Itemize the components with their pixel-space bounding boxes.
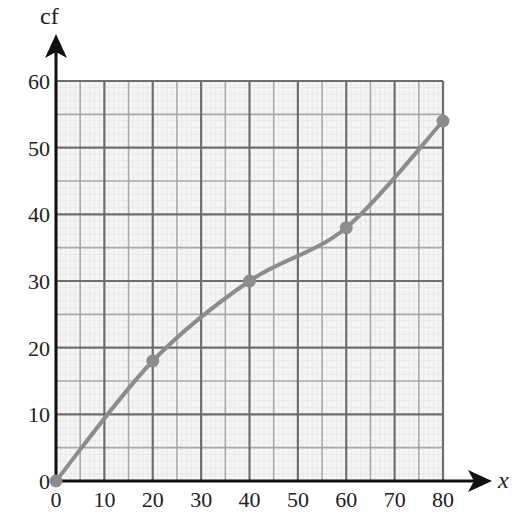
y-tick-label: 20 [28,336,50,361]
x-tick-label: 0 [51,487,62,512]
data-point [146,355,159,368]
data-point [340,221,353,234]
y-axis-label: cf [40,3,59,29]
x-tick-label: 10 [93,487,115,512]
y-tick-label: 40 [28,202,50,227]
y-tick-label: 60 [28,69,50,94]
x-tick-label: 50 [287,487,309,512]
x-tick-label: 80 [432,487,454,512]
x-tick-label: 60 [335,487,357,512]
y-tick-label: 30 [28,269,50,294]
data-point [437,115,450,128]
x-tick-label: 20 [142,487,164,512]
x-tick-label: 70 [384,487,406,512]
x-tick-label: 40 [239,487,261,512]
y-tick-label: 50 [28,136,50,161]
y-tick-label: 0 [39,469,50,494]
y-tick-labels: 0102030405060 [28,69,50,494]
data-point [50,475,63,488]
data-point [243,275,256,288]
x-tick-label: 30 [190,487,212,512]
y-tick-label: 10 [28,402,50,427]
x-axis-label: x [497,467,509,493]
cumulative-frequency-chart: 01020304050607080 0102030405060 cf x [0,0,516,514]
x-tick-labels: 01020304050607080 [51,487,455,512]
